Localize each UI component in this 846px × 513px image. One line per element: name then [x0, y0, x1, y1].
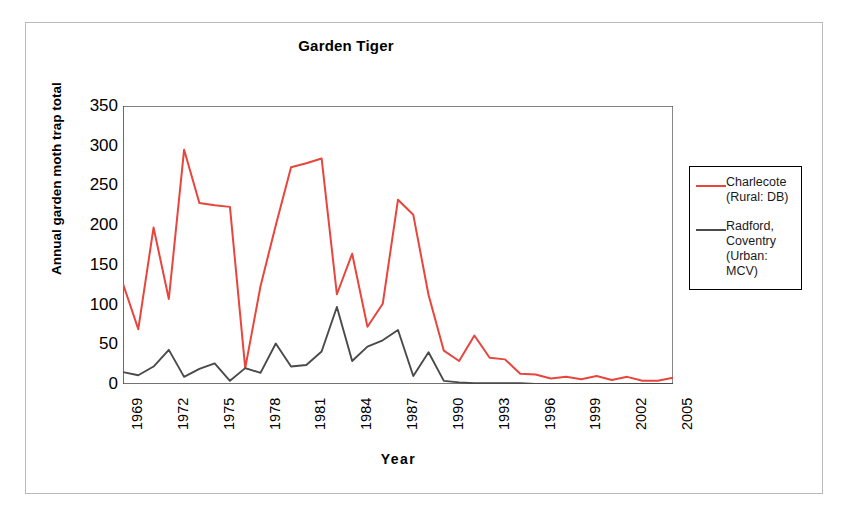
legend-swatch-charlecote-icon [696, 179, 726, 193]
y-tick-label-100: 100 [56, 296, 118, 314]
legend-item-radford-coventry[interactable]: Radford,Coventry(Urban:MCV) [696, 219, 795, 279]
chart-title: Garden Tiger [26, 37, 666, 54]
y-tick-label-0: 0 [56, 375, 118, 393]
series-line-radford-coventry [123, 307, 673, 384]
x-tick-label-1969: 1969 [129, 398, 145, 430]
x-tick-label-1996: 1996 [542, 398, 558, 430]
legend-item-charlecote[interactable]: Charlecote(Rural: DB) [696, 175, 795, 205]
x-tick-label-1984: 1984 [358, 398, 374, 430]
x-tick-label-1981: 1981 [312, 398, 328, 430]
legend-swatch-radford-coventry-icon [696, 223, 726, 237]
x-tick-label-1990: 1990 [450, 398, 466, 430]
legend-label-charlecote: Charlecote(Rural: DB) [726, 175, 789, 205]
y-tick-label-200: 200 [56, 216, 118, 234]
y-tick-label-350: 350 [56, 97, 118, 115]
plot-area [123, 106, 673, 384]
legend-label-radford-coventry: Radford,Coventry(Urban:MCV) [726, 219, 776, 279]
x-tick-label-1993: 1993 [496, 398, 512, 430]
x-tick-label-2002: 2002 [633, 398, 649, 430]
x-tick-label-1978: 1978 [267, 398, 283, 430]
x-tick-label-1987: 1987 [404, 398, 420, 430]
series-line-charlecote [123, 150, 673, 381]
y-tick-label-150: 150 [56, 256, 118, 274]
chart-plot-svg [123, 106, 673, 384]
data-series-group [123, 150, 673, 384]
y-tick-label-50: 50 [56, 335, 118, 353]
x-tick-label-1975: 1975 [221, 398, 237, 430]
x-tick-label-2005: 2005 [679, 398, 695, 430]
y-tick-label-250: 250 [56, 176, 118, 194]
x-axis-label: Year [121, 451, 676, 467]
chart-legend: Charlecote(Rural: DB)Radford,Coventry(Ur… [689, 166, 802, 290]
y-tick-label-300: 300 [56, 137, 118, 155]
x-axis-tick-labels: 1969197219751978198119841987199019931996… [123, 388, 683, 450]
axes [123, 106, 673, 384]
chart-figure: Garden Tiger Annual garden moth trap tot… [25, 22, 823, 494]
y-axis-tick-labels: 050100150200250300350 [56, 97, 118, 393]
x-tick-label-1972: 1972 [175, 398, 191, 430]
x-tick-label-1999: 1999 [587, 398, 603, 430]
